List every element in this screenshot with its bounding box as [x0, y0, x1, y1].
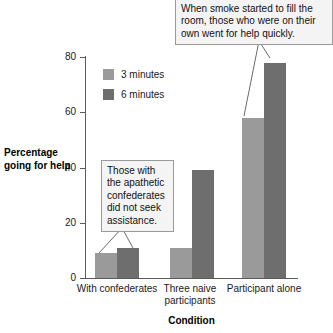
- chart-figure: 80 60 40 20 0 Percentage going for help …: [0, 0, 333, 333]
- leader-line-top-callout: [244, 41, 270, 116]
- callout-top: When smoke started to fill the room, tho…: [175, 0, 333, 45]
- callout-bottom: Those with the apathetic confederates di…: [101, 160, 174, 232]
